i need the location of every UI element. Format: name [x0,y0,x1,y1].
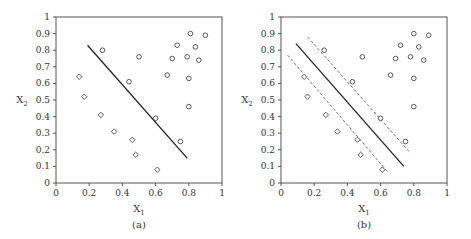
circle-point [196,58,201,63]
diamond-point [323,112,328,117]
circle-point [360,55,365,60]
circle-point [127,79,132,84]
diamond-point [98,112,103,117]
circle-point [412,76,417,81]
circle-point [408,55,413,60]
diamond-point [380,167,385,172]
x-tick-label: 0.6 [148,188,163,198]
circle-point [412,31,417,36]
diamond-point [133,152,138,157]
y-tick-label: 0.7 [36,62,51,72]
diamond-point [302,74,307,79]
figure-canvas: 00.10.20.30.40.50.60.70.80.9100.20.40.60… [0,0,471,239]
decision-boundary [296,44,404,167]
y-tick-label: 1 [269,12,275,22]
y-tick-label: 0 [44,178,50,188]
x-tick-label: 0.8 [182,188,197,198]
circle-point [322,48,327,53]
circle-point [153,116,158,121]
panel-label: (b) [357,219,371,230]
margin-line [288,55,388,171]
circle-point [185,55,190,60]
diamond-point [335,129,340,134]
y-tick-label: 0.4 [261,112,276,122]
x-tick-label: 0.4 [115,188,130,198]
diamond-point [130,137,135,142]
panel-label: (a) [132,219,146,230]
circle-point [100,48,105,53]
y-tick-label: 0.2 [261,145,275,155]
x-tick-label: 0 [278,188,284,198]
margin-line [308,37,411,153]
y-tick-label: 0.1 [261,161,275,171]
y-tick-label: 0.6 [36,78,51,88]
diamond-point [111,129,116,134]
circle-point [403,139,408,144]
x-tick-label: 0.8 [407,188,422,198]
x-tick-label: 0.2 [307,188,321,198]
circle-point [426,33,431,38]
y-tick-label: 0.1 [36,161,50,171]
circle-point [170,56,175,61]
circle-point [388,73,393,78]
y-tick-label: 0.5 [36,95,51,105]
circle-point [398,43,403,48]
circle-point [137,55,142,60]
circle-point [416,45,421,50]
diamond-point [77,74,82,79]
y-tick-label: 0.8 [261,45,276,55]
y-axis-label: X2 [241,94,253,108]
y-tick-label: 0.9 [36,29,51,39]
y-tick-label: 1 [44,12,50,22]
x-tick-label: 0.2 [82,188,96,198]
diamond-point [358,152,363,157]
y-tick-label: 0 [269,178,275,188]
x-axis-label: X1 [133,203,145,217]
circle-point [188,31,193,36]
y-tick-label: 0.5 [261,95,276,105]
circle-point [175,43,180,48]
circle-point [193,45,198,50]
circle-point [350,79,355,84]
y-tick-label: 0.9 [261,29,276,39]
circle-point [378,116,383,121]
circle-point [412,104,417,109]
y-tick-label: 0.2 [36,145,50,155]
y-tick-label: 0.8 [36,45,51,55]
y-tick-label: 0.3 [261,128,276,138]
chart-panel-b: 00.10.20.30.40.50.60.70.80.9100.20.40.60… [241,12,450,230]
x-tick-label: 1 [219,188,225,198]
y-tick-label: 0.3 [36,128,51,138]
diamond-point [355,137,360,142]
y-tick-label: 0.7 [261,62,276,72]
circle-point [187,104,192,109]
x-tick-label: 0.6 [373,188,388,198]
x-tick-label: 0.4 [340,188,355,198]
diamond-point [305,94,310,99]
circle-point [178,139,183,144]
plot-frame [281,17,447,183]
plot-frame [56,17,222,183]
x-axis-label: X1 [358,203,370,217]
diamond-point [82,94,87,99]
x-tick-label: 1 [444,188,450,198]
y-tick-label: 0.6 [261,78,276,88]
y-axis-label: X2 [16,94,28,108]
decision-boundary [88,45,188,158]
y-tick-label: 0.4 [36,112,51,122]
diamond-point [155,167,160,172]
circle-point [421,58,426,63]
chart-panel-a: 00.10.20.30.40.50.60.70.80.9100.20.40.60… [16,12,225,230]
circle-point [165,73,170,78]
circle-point [187,76,192,81]
circle-point [393,56,398,61]
x-tick-label: 0 [53,188,59,198]
circle-point [203,33,208,38]
